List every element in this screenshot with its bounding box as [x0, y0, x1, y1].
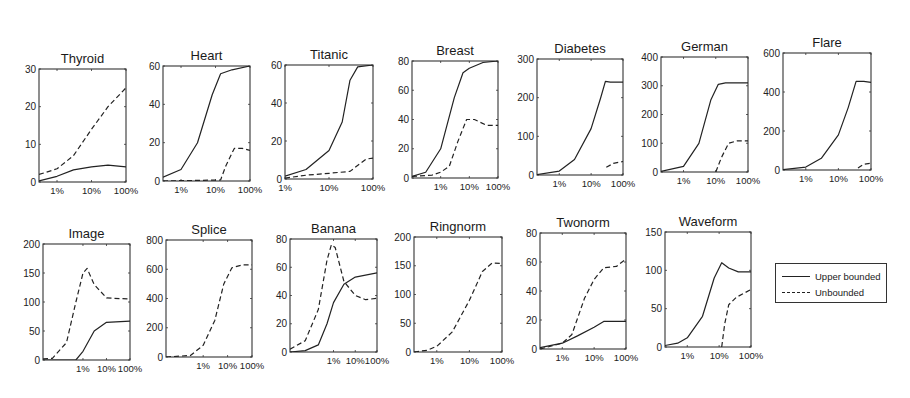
subplot-title: Ringnorm [430, 219, 486, 234]
x-tick-label: 100% [859, 173, 884, 184]
subplot-title: German [681, 39, 728, 54]
subplot-title: Heart [191, 48, 223, 63]
subplot-german: German01002003004001%10%100% [641, 39, 760, 186]
y-tick-label: 100 [394, 289, 411, 300]
x-tick-label: 100% [114, 185, 139, 196]
y-tick-label: 0 [656, 342, 662, 353]
y-tick-label: 10 [25, 139, 37, 150]
y-tick-label: 200 [23, 239, 40, 250]
x-tick-label: 100% [614, 352, 639, 363]
y-tick-label: 200 [146, 322, 163, 333]
x-tick-label: 1% [434, 181, 448, 192]
y-tick-label: 600 [763, 48, 780, 59]
unbounded-line [540, 259, 626, 349]
legend-label: Upper bounded [815, 271, 881, 282]
subplot-splice: Splice02004006008001%10%100% [146, 222, 264, 371]
upper-bounded-line [665, 263, 751, 346]
y-tick-label: 200 [641, 109, 658, 120]
y-tick-label: 0 [403, 173, 409, 184]
legend-entry-upper-bounded: Upper bounded [782, 269, 881, 283]
y-tick-label: 20 [25, 101, 37, 112]
y-tick-label: 100 [641, 138, 658, 149]
subplot-title: Splice [191, 222, 226, 237]
y-tick-label: 60 [149, 61, 161, 72]
y-tick-label: 0 [281, 347, 287, 358]
unbounded-line [412, 120, 498, 177]
x-tick-label: 10% [710, 350, 730, 361]
dashed-line-swatch-icon [782, 292, 810, 293]
x-tick-label: 10% [585, 352, 605, 363]
upper-bounded-line [783, 81, 871, 169]
x-tick-label: 10% [460, 355, 480, 366]
unbounded-line [858, 163, 871, 168]
x-tick-label: 100% [361, 182, 386, 193]
x-tick-label: 10% [706, 175, 726, 186]
x-tick-label: 10% [206, 184, 226, 195]
unbounded-line [722, 290, 751, 348]
unbounded-line [163, 148, 250, 181]
subplot-title: Flare [812, 35, 842, 50]
subplot-title: Diabetes [554, 41, 606, 56]
x-tick-label: 100% [736, 175, 761, 186]
subplot-diabetes: Diabetes01002003001%10%100% [517, 41, 635, 189]
y-tick-label: 800 [146, 235, 163, 246]
unbounded-line [606, 162, 623, 168]
subplot-title: Titanic [310, 47, 348, 62]
y-tick-label: 0 [652, 167, 658, 178]
x-tick-label: 1% [430, 355, 444, 366]
legend: Upper bounded Unbounded [775, 263, 887, 303]
y-tick-label: 150 [645, 227, 662, 238]
y-tick-label: 600 [146, 264, 163, 275]
x-tick-label: 100% [240, 360, 265, 371]
axes-frame [661, 57, 748, 172]
subplot-title: Waveform [679, 214, 738, 229]
x-tick-label: 1% [677, 175, 691, 186]
subplot-twonorm: Twonorm0204060801%10%100% [526, 215, 639, 363]
upper-bounded-line [39, 165, 126, 181]
legend-entry-unbounded: Unbounded [782, 285, 864, 299]
subplot-title: Image [68, 226, 104, 241]
x-tick-label: 100% [118, 363, 143, 374]
axes-frame [285, 65, 373, 179]
unbounded-line [285, 158, 373, 178]
upper-bounded-line [43, 321, 130, 360]
axes-frame [166, 240, 252, 357]
y-tick-label: 150 [23, 268, 40, 279]
subplot-title: Twonorm [556, 215, 609, 230]
axes-frame [414, 237, 502, 352]
x-tick-label: 100% [486, 181, 511, 192]
y-tick-label: 40 [398, 114, 410, 125]
upper-bounded-line [540, 321, 626, 347]
y-tick-label: 200 [763, 126, 780, 137]
subplot-title: Thyroid [61, 51, 104, 66]
y-tick-label: 40 [149, 99, 161, 110]
x-tick-label: 10% [319, 182, 339, 193]
y-tick-label: 30 [25, 64, 37, 75]
x-tick-label: 100% [365, 355, 390, 366]
x-tick-label: 1% [174, 184, 188, 195]
y-tick-label: 60 [276, 262, 288, 273]
y-tick-label: 80 [526, 228, 538, 239]
unbounded-line [716, 141, 748, 172]
y-tick-label: 300 [641, 80, 658, 91]
subplot-flare: Flare02004006001%10%100% [763, 35, 883, 184]
x-tick-label: 1% [799, 173, 813, 184]
y-tick-label: 50 [400, 318, 412, 329]
unbounded-line [166, 265, 252, 357]
unbounded-line [290, 245, 377, 350]
y-tick-label: 150 [394, 260, 411, 271]
y-tick-label: 60 [398, 85, 410, 96]
upper-bounded-line [163, 66, 250, 177]
upper-bounded-line [290, 273, 377, 352]
y-tick-label: 0 [531, 344, 537, 355]
y-tick-label: 0 [34, 355, 40, 366]
subplot-thyroid: Thyroid01020301%10%100% [25, 51, 139, 196]
upper-bounded-line [661, 83, 748, 171]
x-tick-label: 1% [327, 355, 341, 366]
y-tick-label: 40 [276, 290, 288, 301]
y-tick-label: 200 [517, 92, 534, 103]
axes-frame [783, 53, 871, 170]
x-tick-label: 1% [76, 363, 90, 374]
subplot-banana: Banana0204060801%10%100% [276, 221, 390, 366]
y-tick-label: 40 [271, 98, 283, 109]
